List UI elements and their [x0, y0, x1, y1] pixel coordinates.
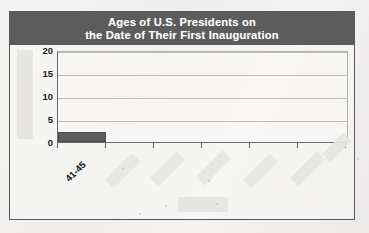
- scan-speck: [165, 205, 167, 207]
- x-tick: [57, 143, 58, 148]
- y-tick-label: 20: [31, 46, 53, 56]
- x-axis-title-placeholder: [178, 197, 228, 212]
- y-axis-labels: 20 15 10 5 0: [29, 46, 53, 148]
- gridline-15: [58, 75, 347, 76]
- x-tick: [201, 143, 202, 148]
- y-tick-label: 10: [31, 92, 53, 102]
- x-tick: [153, 143, 154, 148]
- y-tick-label: 0: [31, 138, 53, 148]
- x-tick: [297, 143, 298, 148]
- gridline-10: [58, 98, 347, 99]
- chart-title-banner: Ages of U.S. Presidents on the Date of T…: [10, 12, 354, 45]
- chart-title-line-1: Ages of U.S. Presidents on: [108, 16, 256, 29]
- chart-screenshot: Ages of U.S. Presidents on the Date of T…: [0, 0, 369, 233]
- y-tick-label: 5: [31, 115, 53, 125]
- bar-41-45: [58, 132, 106, 142]
- scan-speck: [208, 180, 210, 182]
- scan-speck: [216, 203, 218, 205]
- gridline-5: [58, 121, 347, 122]
- plot-area: [57, 51, 348, 143]
- gridline-20: [58, 52, 347, 53]
- scan-speck: [122, 168, 124, 170]
- scan-speck: [357, 158, 359, 160]
- chart-title-line-2: the Date of Their First Inauguration: [85, 29, 279, 42]
- y-tick-label: 15: [31, 69, 53, 79]
- scan-speck: [139, 213, 141, 215]
- x-tick: [249, 143, 250, 148]
- x-tick: [105, 143, 106, 148]
